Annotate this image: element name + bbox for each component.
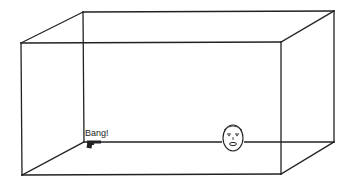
bang-label: Bang! xyxy=(85,128,109,138)
depth-edges xyxy=(21,11,334,175)
face-icon xyxy=(222,125,244,151)
box-diagram: Bang! xyxy=(0,0,351,185)
pistol-icon xyxy=(87,141,101,149)
back-face xyxy=(83,11,334,142)
